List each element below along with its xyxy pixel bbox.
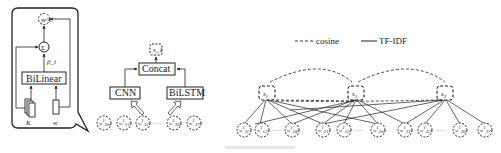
panel-c-word-nodes: w111 w112 ······ w118 w121 w122 ······ w… xyxy=(237,123,492,137)
legend-cosine-label: cosine xyxy=(316,36,339,46)
w-vector-icon xyxy=(53,100,59,114)
beta-weight-label: β_i xyxy=(46,58,56,66)
word-node-label: w136 xyxy=(169,118,180,127)
caption-placeholder xyxy=(225,146,295,149)
ellipsis: ······ xyxy=(152,121,162,126)
word-node-label: w12n xyxy=(99,118,110,127)
input-k-label: K xyxy=(25,119,31,127)
output-node-label: w^c xyxy=(41,16,52,24)
input-w-label: w xyxy=(53,119,58,127)
panel-c-graph: cosine TF-IDF s1 s2 s3 xyxy=(237,36,492,137)
concat-label: Concat xyxy=(142,63,171,74)
word-node-label: w132 xyxy=(138,118,149,127)
diagram-canvas: w^c Σ β_i BiLinear K w s_1 xyxy=(0,0,501,153)
ellipsis: ······ xyxy=(272,128,282,133)
hollow-arrow-cnn xyxy=(131,101,144,115)
sum-symbol: Σ xyxy=(41,44,45,52)
sentence-output-label: s_1 xyxy=(153,46,163,54)
word-node-label: w131 xyxy=(119,118,130,127)
legend: cosine TF-IDF xyxy=(295,36,407,46)
ellipsis: ······ xyxy=(354,128,364,133)
legend-tfidf-label: TF-IDF xyxy=(379,36,407,46)
word-node-label: w137 xyxy=(189,118,200,127)
bilinear-label: BiLinear xyxy=(26,73,62,84)
sentence-nodes: s1 s2 s3 xyxy=(259,86,453,100)
hollow-arrow-bilstm xyxy=(168,101,181,115)
k-matrix-icon xyxy=(25,99,35,117)
panel-b-sentence-encoder: s_1 Concat CNN BiLSTM w12n w131 w132 ···… xyxy=(97,44,205,130)
ellipsis: ······ xyxy=(435,128,445,133)
panel-b-word-nodes: w12n w131 w132 ······ w136 w137 xyxy=(97,116,201,130)
bilstm-label: BiLSTM xyxy=(169,87,205,98)
cnn-label: CNN xyxy=(115,87,136,98)
panel-a-attention: w^c Σ β_i BiLinear K w xyxy=(12,8,88,131)
tfidf-edges xyxy=(244,100,485,124)
panel-a-frame xyxy=(12,8,88,131)
